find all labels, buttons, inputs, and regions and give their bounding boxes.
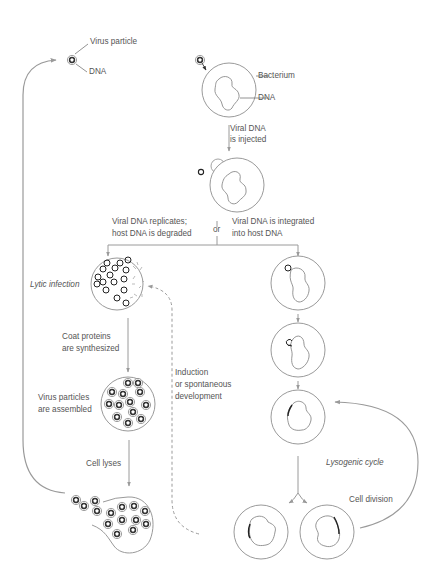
replicates-label-line2: host DNA is degraded [112, 228, 192, 239]
cell-division-label: Cell division [349, 494, 393, 505]
bacterium-icon [198, 158, 264, 212]
injected-label-line1: Viral DNA [230, 123, 266, 134]
prophage-cell-1-icon [271, 256, 325, 310]
integrated-label-line2: into host DNA [232, 228, 283, 239]
injected-label-line2: is injected [230, 134, 266, 145]
division-fork-left [289, 493, 298, 503]
induction-label-line3: development [175, 391, 222, 402]
virus-dna-label: DNA [89, 66, 106, 77]
integrated-label-line1: Viral DNA is integrated [232, 216, 314, 227]
replicates-label-line1: Viral DNA replicates; [112, 216, 187, 227]
lysogenic-cycle-label: Lysogenic cycle [326, 457, 384, 468]
assembled-label-line1: Virus particles [38, 392, 89, 403]
virus-particle-icon [195, 55, 204, 64]
bacterium-label: Bacterium [258, 70, 295, 81]
assembly-cell-icon [101, 377, 155, 431]
lytic-infection-label: Lytic infection [30, 279, 79, 290]
induction-label-line1: Induction [175, 367, 208, 378]
injection-arrow [202, 63, 206, 70]
prophage-cell-3-icon [271, 390, 325, 444]
division-fork-right [298, 493, 307, 503]
bacterium-icon [202, 63, 256, 117]
induction-label-line2: or spontaneous [175, 379, 231, 390]
coat-proteins-label-line2: are synthesized [62, 343, 119, 354]
return-loop-arrow [23, 60, 65, 493]
cell-lyses-label: Cell lyses [86, 458, 121, 469]
coat-proteins-label-line1: Coat proteins [62, 331, 111, 342]
virus-particle-leader [75, 44, 88, 54]
burst-cell-icon [71, 495, 153, 553]
virus-particle-icon [67, 55, 76, 64]
virus-particle-label: Virus particle [90, 36, 137, 47]
bacterium-dna-label: DNA [258, 92, 275, 103]
virus-dna-leader [76, 64, 87, 72]
daughter-cell-right-icon [300, 505, 354, 559]
daughter-cell-left-icon [234, 505, 288, 559]
lytic-cell-icon [91, 257, 144, 310]
induction-arrow [148, 286, 199, 534]
prophage-cell-2-icon [271, 323, 325, 377]
assembled-label-line2: are assembled [38, 404, 92, 415]
or-label: or [213, 224, 220, 235]
